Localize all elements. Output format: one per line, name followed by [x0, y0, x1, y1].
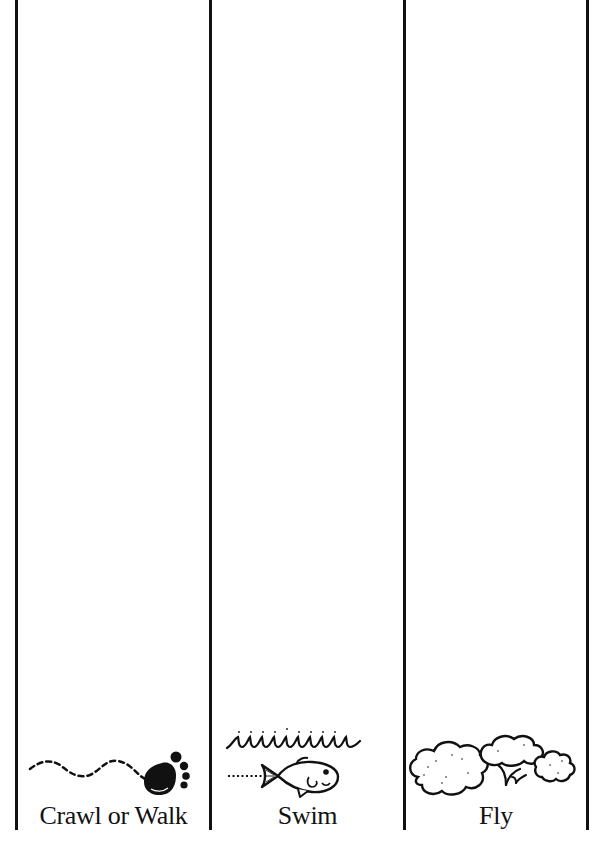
- column-crawl-or-walk: Crawl or Walk: [18, 0, 209, 830]
- sort-area-swim[interactable]: [212, 0, 403, 720]
- column-swim: Swim: [212, 0, 403, 830]
- sort-area-crawl-or-walk[interactable]: [18, 0, 209, 720]
- column-fly: Fly: [406, 0, 586, 830]
- clouds-bird-icon: [406, 725, 586, 805]
- sort-area-fly[interactable]: [406, 0, 586, 720]
- column-label-fly: Fly: [406, 800, 586, 832]
- fish-icon: [212, 725, 403, 805]
- column-label-crawl-or-walk: Crawl or Walk: [18, 800, 209, 832]
- divider-line-right: [586, 0, 589, 830]
- footprint-icon: [18, 725, 209, 805]
- column-label-swim: Swim: [212, 800, 403, 832]
